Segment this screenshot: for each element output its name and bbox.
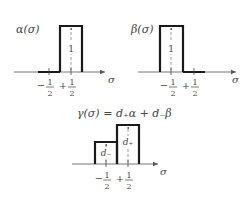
gamma-tick-label-plus: + 1 2 xyxy=(116,171,133,191)
svg-text:1: 1 xyxy=(47,78,52,87)
alpha-tick-label-plus: + 1 2 xyxy=(59,78,76,98)
svg-text:2: 2 xyxy=(69,89,74,98)
svg-text:−: − xyxy=(160,80,168,91)
gamma-panel: γ(σ) = d₊α + d₋β d₋ d₊ σ − 1 2 + 1 2 xyxy=(72,107,172,191)
beta-panel: β(σ) 1 σ − 1 2 + 1 2 xyxy=(130,23,240,98)
alpha-tick-label-minus: − 1 2 xyxy=(37,78,54,98)
alpha-title: α(σ) xyxy=(16,23,40,36)
svg-text:+: + xyxy=(59,80,67,91)
svg-text:1: 1 xyxy=(104,171,109,180)
svg-text:1: 1 xyxy=(126,171,131,180)
beta-tick-label-minus: − 1 2 xyxy=(160,78,177,98)
beta-height-label: 1 xyxy=(168,44,174,54)
alpha-height-label: 1 xyxy=(68,44,74,54)
alpha-axis-label: σ xyxy=(108,74,116,85)
svg-text:+: + xyxy=(182,80,190,91)
svg-text:2: 2 xyxy=(170,89,175,98)
diagram: α(σ) 1 σ − 1 2 + 1 2 β(σ) 1 σ xyxy=(0,0,241,201)
alpha-panel: α(σ) 1 σ − 1 2 + 1 2 xyxy=(14,23,116,98)
svg-text:2: 2 xyxy=(126,182,131,191)
svg-text:2: 2 xyxy=(192,89,197,98)
svg-text:1: 1 xyxy=(192,78,197,87)
beta-axis-label: σ xyxy=(232,74,240,85)
svg-text:−: − xyxy=(37,80,45,91)
gamma-axis-label: σ xyxy=(160,166,168,177)
beta-title: β(σ) xyxy=(130,23,153,36)
svg-text:1: 1 xyxy=(69,78,74,87)
svg-text:2: 2 xyxy=(47,89,52,98)
svg-text:2: 2 xyxy=(104,182,109,191)
gamma-tick-label-minus: − 1 2 xyxy=(95,171,111,191)
svg-text:+: + xyxy=(116,173,124,184)
gamma-right-height-label: d₊ xyxy=(123,137,134,147)
svg-text:1: 1 xyxy=(170,78,175,87)
gamma-title: γ(σ) = d₊α + d₋β xyxy=(77,107,172,120)
svg-text:−: − xyxy=(95,173,103,184)
beta-tick-label-plus: + 1 2 xyxy=(182,78,199,98)
gamma-left-height-label: d₋ xyxy=(101,148,112,158)
